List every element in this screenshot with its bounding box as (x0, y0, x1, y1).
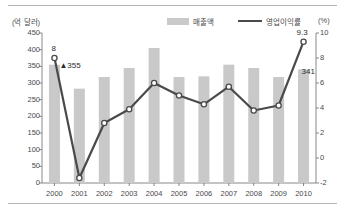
y-axis-left-tick-450: 450 (14, 29, 40, 37)
line-marker-2009 (276, 103, 281, 108)
bar-2003 (124, 68, 135, 183)
line-marker-2002 (102, 120, 107, 125)
y-axis-left-tick-250: 250 (14, 96, 40, 104)
bar-2004 (149, 48, 160, 183)
x-axis-tick-2010: 2010 (289, 190, 319, 198)
y-axis-right-tick-6: 6 (320, 79, 342, 87)
line-marker-2006 (201, 102, 206, 107)
y-axis-left-tick-0: 0 (14, 179, 40, 187)
y-axis-right-tick--2: -2 (320, 179, 342, 187)
line-marker-2003 (127, 107, 132, 112)
chart-plot-area (0, 0, 345, 211)
line-marker-2005 (176, 93, 181, 98)
line-marker-2004 (151, 80, 156, 85)
line-marker-2007 (226, 84, 231, 89)
line-marker-2008 (251, 108, 256, 113)
y-axis-right-tick-10: 10 (320, 29, 342, 37)
line-marker-2010 (301, 39, 306, 44)
chart-figure: (억 달러) (%) 매출액 영업이익률 4504003503002502001… (0, 0, 345, 211)
y-axis-left-tick-350: 350 (14, 62, 40, 70)
line-marker-2000 (52, 55, 57, 60)
data-label-line-2000: 8 (51, 45, 55, 53)
y-axis-right-tick-2: 2 (320, 129, 342, 137)
bar-2010 (298, 69, 309, 183)
data-label-bar-2000: ▲355 (59, 62, 80, 70)
y-axis-right-tick-4: 4 (320, 104, 342, 112)
y-axis-right-tick-8: 8 (320, 54, 342, 62)
bar-2007 (223, 65, 234, 183)
bar-2000 (49, 65, 60, 183)
bar-2008 (248, 68, 259, 183)
y-axis-left-tick-300: 300 (14, 79, 40, 87)
y-axis-left-tick-200: 200 (14, 112, 40, 120)
y-axis-left-tick-100: 100 (14, 146, 40, 154)
bar-2006 (198, 76, 209, 183)
data-label-line-2010: 9.3 (297, 29, 308, 37)
y-axis-left-tick-400: 400 (14, 46, 40, 54)
y-axis-left-tick-50: 50 (14, 162, 40, 170)
y-axis-left-tick-150: 150 (14, 129, 40, 137)
data-label-bar-2010: 341 (302, 68, 315, 76)
y-axis-right-tick-0: 0 (320, 154, 342, 162)
line-marker-2001 (77, 175, 82, 180)
